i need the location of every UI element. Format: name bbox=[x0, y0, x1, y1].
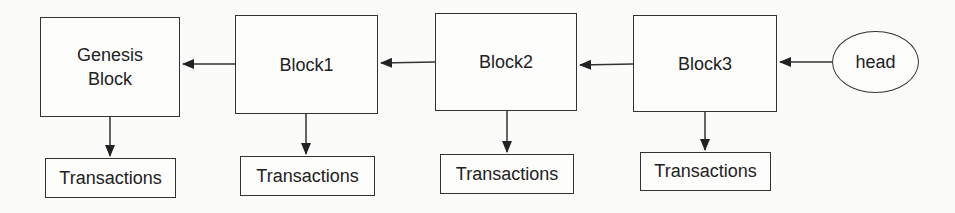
block1: Block1 bbox=[235, 15, 378, 114]
block1-transactions-label: Transactions bbox=[256, 166, 358, 187]
block3-transactions-label: Transactions bbox=[654, 161, 756, 182]
block1-transactions: Transactions bbox=[240, 156, 375, 196]
genesis-block-label: Genesis Block bbox=[77, 43, 143, 91]
head-pointer: head bbox=[832, 31, 919, 93]
genesis-block: Genesis Block bbox=[40, 17, 180, 117]
genesis-transactions: Transactions bbox=[45, 158, 176, 198]
block1-label: Block1 bbox=[279, 53, 333, 77]
block3: Block3 bbox=[633, 15, 777, 112]
block2-label: Block2 bbox=[479, 50, 533, 74]
head-label: head bbox=[855, 52, 895, 73]
arrow-block3-to-block2 bbox=[580, 64, 633, 65]
block3-label: Block3 bbox=[678, 52, 732, 76]
block2-transactions: Transactions bbox=[440, 154, 574, 194]
arrow-block2-to-block1 bbox=[381, 62, 435, 63]
genesis-transactions-label: Transactions bbox=[59, 168, 161, 189]
block2: Block2 bbox=[435, 13, 577, 111]
block3-transactions: Transactions bbox=[640, 152, 771, 191]
block2-transactions-label: Transactions bbox=[456, 164, 558, 185]
